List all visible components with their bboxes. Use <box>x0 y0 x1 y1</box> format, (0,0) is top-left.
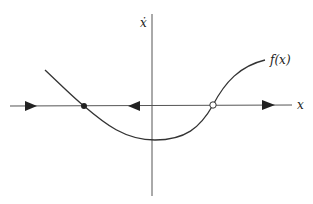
phase-diagram: ẋ x f(x) <box>0 0 313 204</box>
stable-fixed-point-icon <box>81 103 87 109</box>
horizontal-axis-label: x <box>297 98 304 112</box>
flow-arrow-right-icon <box>25 101 37 111</box>
unstable-fixed-point-icon <box>210 102 216 108</box>
flow-arrow-left-icon <box>128 101 140 111</box>
flow-arrow-right-icon <box>262 100 275 110</box>
curve-f-of-x <box>45 60 265 140</box>
curve-label: f(x) <box>269 53 291 67</box>
vertical-axis-label: ẋ <box>140 16 147 30</box>
horizontal-axis <box>10 105 292 106</box>
